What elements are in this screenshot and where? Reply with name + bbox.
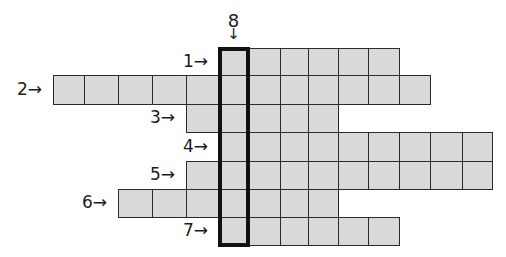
grid-cell[interactable] bbox=[308, 75, 339, 105]
down-arrow-icon: ↓ bbox=[219, 27, 248, 42]
grid-cell[interactable] bbox=[219, 161, 249, 190]
grid-cell[interactable] bbox=[219, 75, 249, 105]
grid-cell[interactable] bbox=[152, 75, 187, 105]
grid-cell[interactable] bbox=[368, 48, 400, 76]
grid-cell[interactable] bbox=[280, 104, 309, 133]
grid-cell[interactable] bbox=[280, 217, 309, 246]
grid-cell[interactable] bbox=[338, 48, 369, 76]
crossword-grid: 1→2→3→4→5→6→7→8↓ bbox=[0, 0, 506, 257]
grid-cell[interactable] bbox=[280, 48, 309, 76]
across-clue-number-1: 1→ bbox=[183, 53, 208, 70]
grid-cell[interactable] bbox=[186, 104, 220, 133]
grid-cell[interactable] bbox=[399, 75, 431, 105]
across-clue-number-5: 5→ bbox=[150, 166, 175, 183]
grid-cell[interactable] bbox=[219, 104, 249, 133]
grid-cell[interactable] bbox=[308, 161, 339, 190]
grid-cell[interactable] bbox=[280, 75, 309, 105]
grid-cell[interactable] bbox=[338, 132, 369, 162]
across-clue-number-7: 7→ bbox=[183, 222, 208, 239]
grid-cell[interactable] bbox=[368, 217, 400, 246]
grid-cell[interactable] bbox=[462, 132, 493, 162]
grid-cell[interactable] bbox=[308, 217, 339, 246]
grid-cell[interactable] bbox=[308, 104, 339, 133]
grid-cell[interactable] bbox=[248, 75, 281, 105]
grid-cell[interactable] bbox=[430, 132, 463, 162]
grid-cell[interactable] bbox=[308, 189, 339, 218]
grid-cell[interactable] bbox=[186, 161, 220, 190]
grid-cell[interactable] bbox=[219, 217, 249, 246]
grid-cell[interactable] bbox=[462, 161, 493, 190]
grid-cell[interactable] bbox=[280, 132, 309, 162]
grid-cell[interactable] bbox=[219, 189, 249, 218]
grid-cell[interactable] bbox=[308, 48, 339, 76]
across-clue-number-3: 3→ bbox=[150, 109, 175, 126]
grid-cell[interactable] bbox=[248, 161, 281, 190]
grid-cell[interactable] bbox=[248, 132, 281, 162]
grid-cell[interactable] bbox=[219, 48, 249, 76]
grid-cell[interactable] bbox=[53, 75, 85, 105]
down-clue-number-8: 8↓ bbox=[219, 12, 248, 42]
grid-cell[interactable] bbox=[118, 75, 153, 105]
grid-cell[interactable] bbox=[186, 189, 220, 218]
grid-cell[interactable] bbox=[338, 217, 369, 246]
grid-cell[interactable] bbox=[186, 75, 220, 105]
across-clue-number-2: 2→ bbox=[17, 81, 42, 98]
grid-cell[interactable] bbox=[248, 217, 281, 246]
grid-cell[interactable] bbox=[368, 132, 400, 162]
grid-cell[interactable] bbox=[248, 189, 281, 218]
grid-cell[interactable] bbox=[368, 161, 400, 190]
across-clue-number-4: 4→ bbox=[183, 138, 208, 155]
grid-cell[interactable] bbox=[152, 189, 187, 218]
grid-cell[interactable] bbox=[280, 161, 309, 190]
grid-cell[interactable] bbox=[399, 161, 431, 190]
grid-cell[interactable] bbox=[368, 75, 400, 105]
grid-cell[interactable] bbox=[338, 75, 369, 105]
grid-cell[interactable] bbox=[219, 132, 249, 162]
grid-cell[interactable] bbox=[308, 132, 339, 162]
grid-cell[interactable] bbox=[399, 132, 431, 162]
grid-cell[interactable] bbox=[280, 189, 309, 218]
grid-cell[interactable] bbox=[118, 189, 153, 218]
grid-cell[interactable] bbox=[430, 161, 463, 190]
grid-cell[interactable] bbox=[248, 48, 281, 76]
across-clue-number-6: 6→ bbox=[82, 194, 107, 211]
grid-cell[interactable] bbox=[338, 161, 369, 190]
grid-cell[interactable] bbox=[248, 104, 281, 133]
grid-cell[interactable] bbox=[84, 75, 119, 105]
